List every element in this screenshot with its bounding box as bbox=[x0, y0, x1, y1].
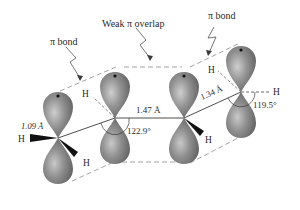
pi-bond-right-pointer bbox=[208, 27, 216, 53]
ch-bond-length-label: 1.09 Å bbox=[21, 121, 44, 131]
h-label-c4-right: H bbox=[273, 87, 280, 97]
h-label-c1-lower: H bbox=[83, 158, 90, 168]
electron-dot bbox=[56, 94, 59, 97]
electron-dot bbox=[182, 74, 185, 77]
double-bond-length-label: 1.34 Å bbox=[199, 83, 225, 102]
c1-h-left-wedge bbox=[30, 134, 58, 142]
electron-dot bbox=[239, 48, 242, 51]
pi-bond-left-pointer bbox=[66, 47, 80, 78]
h-label-c4-upper: H bbox=[208, 65, 215, 75]
weak-overlap-label: Weak π overlap bbox=[102, 18, 165, 29]
angle-left-label: 122.9° bbox=[127, 126, 151, 136]
weak-overlap-pointer bbox=[136, 28, 150, 58]
h-label-c3: H bbox=[205, 135, 212, 145]
single-bond-length-label: 1.47 Å bbox=[136, 105, 161, 115]
angle-right-label: 119.5° bbox=[253, 100, 277, 110]
h-label-c2: H bbox=[82, 89, 89, 99]
pi-bond-right-label: π bond bbox=[208, 10, 236, 21]
pi-bond-left-label: π bond bbox=[50, 36, 78, 47]
h-label-c1-left: H bbox=[18, 134, 25, 144]
pointer-arrows bbox=[66, 27, 216, 78]
electron-dot bbox=[113, 74, 116, 77]
butadiene-pi-orbital-diagram: π bond Weak π overlap π bond H H H H H H… bbox=[0, 0, 300, 210]
